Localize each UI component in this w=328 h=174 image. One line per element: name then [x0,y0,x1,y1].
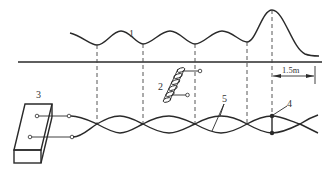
label-wires: 5 [222,93,227,104]
dimension-marker: 1.5m [273,65,315,84]
label-curve: 1 [129,28,134,39]
label-box: 3 [36,89,41,100]
box-terminals [28,114,74,139]
dimension-label: 1.5m [282,65,300,75]
label-node: 4 [287,98,292,109]
box-icon [14,104,52,163]
coil-icon [163,67,202,103]
twisted-wire-b [73,115,318,137]
label-coil: 2 [158,81,163,92]
wave-curve [70,10,319,56]
wire-leaders [212,104,224,131]
diagram-canvas: 1.5m 1 2 3 [0,0,328,174]
